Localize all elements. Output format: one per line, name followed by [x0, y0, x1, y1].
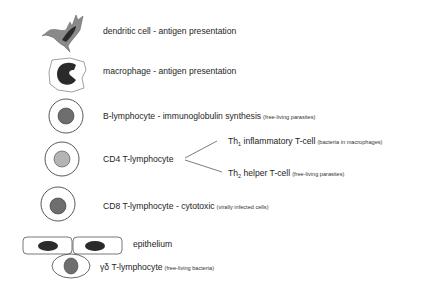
- label-epithelium: epithelium: [133, 240, 172, 249]
- label-text: CD8 T-lymphocyte - cytotoxic: [103, 201, 215, 211]
- label-gamma-delta-lymphocyte: γδ T-lymphocyte(free-living bacteria): [100, 263, 214, 272]
- gamma-delta-lymphocyte-icon: [52, 254, 90, 278]
- epithelium-icon: [23, 237, 122, 254]
- cd4-lymphocyte-icon: [45, 142, 79, 176]
- label-b-lymphocyte: B-lymphocyte - immunoglobulin synthesis(…: [103, 112, 315, 121]
- label-note: (free-living parasites): [263, 114, 315, 120]
- label-text: dendritic cell - antigen presentation: [103, 26, 236, 36]
- branch-line-th1: [185, 141, 217, 158]
- label-text: helper T-cell: [241, 168, 290, 178]
- branch-line-th2: [185, 160, 222, 172]
- label-text: epithelium: [133, 239, 172, 249]
- macrophage-icon: [49, 58, 86, 92]
- dendritic-cell-icon: [42, 15, 83, 52]
- label-note: (bacteria in macrophages): [317, 139, 382, 145]
- th-prefix: Th: [228, 136, 238, 146]
- label-text: γδ T-lymphocyte: [100, 262, 163, 272]
- b-lymphocyte-icon: [49, 99, 83, 133]
- label-note: (free-living bacteria): [165, 265, 214, 271]
- label-th2: Th2 helper T-cell(free-living parasites): [228, 169, 344, 180]
- label-cd8-lymphocyte: CD8 T-lymphocyte - cytotoxic(virally inf…: [103, 202, 269, 211]
- label-macrophage: macrophage - antigen presentation: [103, 67, 236, 76]
- label-text: inflammatory T-cell: [241, 136, 315, 146]
- label-text: B-lymphocyte - immunoglobulin synthesis: [103, 111, 261, 121]
- th-prefix: Th: [228, 168, 238, 178]
- label-th1: Th1 inflammatory T-cell(bacteria in macr…: [228, 137, 382, 148]
- label-note: (free-living parasites): [292, 171, 344, 177]
- cd8-lymphocyte-icon: [41, 187, 75, 221]
- label-text: CD4 T-lymphocyte: [103, 154, 174, 164]
- label-cd4-lymphocyte: CD4 T-lymphocyte: [103, 155, 174, 164]
- label-note: (virally infected cells): [217, 204, 269, 210]
- label-text: macrophage - antigen presentation: [103, 66, 236, 76]
- label-dendritic-cell: dendritic cell - antigen presentation: [103, 27, 236, 36]
